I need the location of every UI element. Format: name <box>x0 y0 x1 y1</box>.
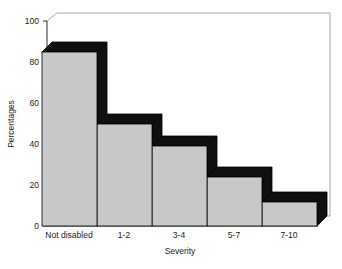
bar-group-3-4 <box>152 136 217 226</box>
bar-top-face-1-2 <box>97 114 162 124</box>
bar-group-not-disabled <box>42 42 107 226</box>
y-tick-label-100: 100 <box>25 16 39 26</box>
bar-top-face-5-7 <box>207 167 272 177</box>
x-label-5-7: 5-7 <box>228 230 241 240</box>
chart-canvas: 100 80 60 40 20 0 Percentages <box>0 0 342 269</box>
y-axis-title: Percentages <box>6 100 16 148</box>
y-tick-label-20: 20 <box>30 180 40 190</box>
y-tick-label-60: 60 <box>30 98 40 108</box>
bar-front-face-5-7 <box>207 177 262 226</box>
bar-group-7-10 <box>262 192 327 226</box>
bar-front-face-7-10 <box>262 202 317 226</box>
bar-group-5-7 <box>207 167 272 226</box>
x-label-not-disabled: Not disabled <box>45 230 93 240</box>
x-axis-title: Severity <box>165 246 196 256</box>
bar-top-face-3-4 <box>152 136 217 146</box>
bar-top-face-7-10 <box>262 192 327 202</box>
bar-top-face-not-disabled <box>42 42 107 52</box>
y-tick-label-0: 0 <box>34 221 39 231</box>
bar-group-1-2 <box>97 114 162 226</box>
bar-chart-figure: 100 80 60 40 20 0 Percentages <box>0 0 342 269</box>
bar-front-face-not-disabled <box>42 52 97 226</box>
y-tick-label-40: 40 <box>30 139 40 149</box>
depth-edge-top-left <box>47 13 57 21</box>
y-axis-tick-labels: 100 80 60 40 20 0 <box>25 16 39 231</box>
x-label-7-10: 7-10 <box>280 230 297 240</box>
bar-front-face-1-2 <box>97 124 152 226</box>
bar-front-face-3-4 <box>152 146 207 226</box>
x-label-3-4: 3-4 <box>173 230 186 240</box>
x-axis-category-labels: Not disabled 1-2 3-4 5-7 7-10 <box>45 230 297 240</box>
bar-side-face-not-disabled <box>97 42 107 124</box>
y-tick-label-80: 80 <box>30 57 40 67</box>
x-label-1-2: 1-2 <box>118 230 131 240</box>
